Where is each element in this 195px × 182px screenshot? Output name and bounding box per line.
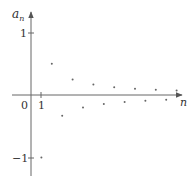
x-tick-label-1: 1 [38, 99, 45, 112]
data-point [61, 115, 63, 117]
data-point [155, 89, 157, 91]
data-point [113, 86, 115, 88]
data-points [40, 63, 177, 159]
data-point [134, 88, 136, 90]
data-point [40, 157, 42, 159]
data-point [82, 107, 84, 109]
data-point [165, 99, 167, 101]
data-point [103, 103, 105, 105]
sequence-plot: an n 0 1 1 −1 [0, 0, 195, 182]
data-point [124, 101, 126, 103]
y-tick-label-1: 1 [20, 27, 27, 40]
y-tick-label-neg1: −1 [12, 152, 28, 165]
data-point [51, 63, 53, 65]
x-axis-label: n [180, 96, 187, 109]
data-point [92, 84, 94, 86]
data-point [144, 100, 146, 102]
y-axis-label: an [12, 7, 24, 23]
data-point [72, 78, 74, 80]
data-point [176, 90, 178, 92]
origin-label: 0 [21, 99, 28, 112]
